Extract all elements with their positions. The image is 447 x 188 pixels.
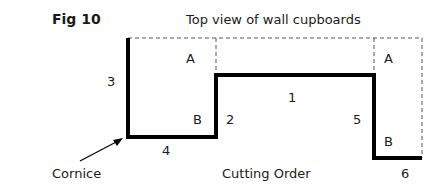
segment-label-4: 4 — [162, 144, 170, 157]
segment-label-2: 2 — [226, 113, 234, 126]
region-label-right-bottom: B — [384, 135, 393, 148]
cornice-label: Cornice — [52, 167, 101, 180]
segment-label-1: 1 — [288, 91, 296, 104]
region-label-right-top: A — [384, 52, 393, 65]
segment-label-5: 5 — [353, 113, 361, 126]
cutting-order-label: Cutting Order — [222, 167, 311, 180]
cornice-path — [128, 38, 422, 158]
segment-label-6: 6 — [401, 167, 409, 180]
segment-label-3: 3 — [107, 75, 115, 88]
cornice-arrow — [80, 138, 123, 161]
cupboard-diagram — [0, 0, 447, 188]
dashed-outline — [128, 38, 422, 158]
region-label-left-top: A — [186, 52, 195, 65]
region-label-left-bottom: B — [193, 113, 202, 126]
